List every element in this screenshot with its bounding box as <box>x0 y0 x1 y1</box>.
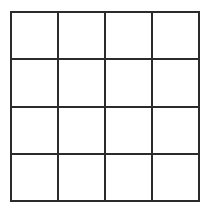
grid-4x4 <box>10 11 200 202</box>
grid-cell-r1-c4 <box>153 13 200 60</box>
grid-cell-r2-c2 <box>59 60 106 107</box>
grid-cell-r4-c4 <box>153 155 200 202</box>
grid-cell-r4-c2 <box>59 155 106 202</box>
grid-cell-r2-c1 <box>12 60 59 107</box>
grid-cell-r4-c3 <box>106 155 153 202</box>
grid-cell-r4-c1 <box>12 155 59 202</box>
grid-cell-r2-c3 <box>106 60 153 107</box>
canvas <box>0 0 208 214</box>
grid-cell-r3-c3 <box>106 108 153 155</box>
grid-cell-r1-c2 <box>59 13 106 60</box>
grid-cell-r3-c2 <box>59 108 106 155</box>
grid-cell-r2-c4 <box>153 60 200 107</box>
grid-cell-r1-c1 <box>12 13 59 60</box>
grid-cell-r3-c1 <box>12 108 59 155</box>
grid-cell-r1-c3 <box>106 13 153 60</box>
grid-cell-r3-c4 <box>153 108 200 155</box>
